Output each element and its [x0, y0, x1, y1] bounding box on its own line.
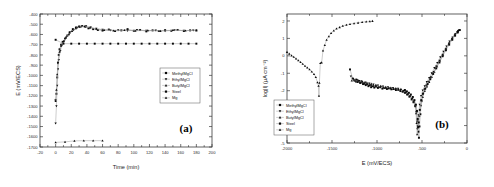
- legend-label-ethylmgcl: EthylMgCl: [286, 109, 304, 114]
- data-point-steel: [180, 43, 182, 45]
- y-tick-label: -5: [281, 141, 285, 146]
- x-tick-label: 120: [146, 150, 154, 155]
- y-axis-title: log|I| (µA cm⁻²): [262, 60, 268, 98]
- series-line-steel: [405, 32, 458, 126]
- x-axis-title: Time (min): [113, 164, 140, 170]
- data-point-steel: [404, 89, 406, 91]
- data-point-steel: [454, 35, 456, 37]
- legend-label-methylmgcl: MethylMgCl: [172, 71, 193, 76]
- y-tick-label: -500: [29, 22, 38, 27]
- panel-b-svg: -2000-1500-1000-5000210-1-2-3-4-5E (mV/E…: [247, 0, 494, 187]
- data-point-mg: [316, 81, 318, 83]
- data-point-steel: [172, 43, 174, 45]
- data-point-steel: [188, 43, 190, 45]
- data-point-steel: [164, 43, 166, 45]
- data-point-steel: [86, 43, 88, 45]
- data-point-steel: [156, 43, 158, 45]
- data-point-steel: [417, 118, 419, 120]
- panel-letter: (a): [180, 122, 193, 135]
- data-point-steel: [422, 93, 424, 95]
- legend-label-methylmgcl: MethylMgCl: [286, 103, 307, 108]
- data-point-steel: [70, 43, 72, 45]
- y-tick-label: 2: [282, 19, 285, 24]
- y-tick-label: -1300: [27, 104, 38, 109]
- panel-letter: (b): [435, 118, 449, 131]
- data-point-butylmgcl: [385, 86, 387, 88]
- data-point-methylmgcl: [349, 68, 351, 70]
- data-point-steel: [417, 126, 419, 128]
- panel-a: -20020406080100120140160180200-400-500-6…: [0, 0, 247, 187]
- data-point-steel: [420, 99, 422, 101]
- data-point-butylmgcl: [395, 87, 397, 89]
- data-point-steel: [419, 109, 421, 111]
- data-point-mg: [286, 51, 288, 53]
- x-tick-label: 0: [466, 146, 469, 151]
- legend-marker-methylmgcl: [279, 104, 281, 106]
- legend-label-butylmgcl: ButylMgCl: [286, 115, 304, 120]
- legend-label-mg: Mg: [172, 95, 177, 100]
- x-tick-label: -1000: [372, 146, 383, 151]
- data-point-mg: [322, 49, 324, 51]
- legend-marker-steel: [165, 90, 167, 92]
- data-point-steel: [412, 96, 414, 98]
- figure-container: -20020406080100120140160180200-400-500-6…: [0, 0, 494, 187]
- data-point-steel: [408, 92, 410, 94]
- data-point-steel: [94, 43, 96, 45]
- y-axis-title: E (mV/ECS): [15, 65, 21, 96]
- data-point-butylmgcl: [416, 133, 418, 135]
- legend-marker-steel: [279, 122, 281, 124]
- data-point-ethylmgcl: [55, 105, 57, 107]
- x-tick-label: 40: [85, 150, 90, 155]
- data-point-ethylmgcl: [54, 123, 56, 125]
- data-point-steel: [445, 49, 447, 51]
- data-point-steel: [435, 67, 437, 69]
- y-tick-label: -1700: [27, 145, 38, 150]
- legend-label-steel: Steel: [172, 89, 181, 94]
- data-point-mg: [318, 82, 320, 84]
- data-point-steel: [406, 90, 408, 92]
- legend-label-mg: Mg: [286, 127, 291, 132]
- y-tick-label: 0: [282, 53, 285, 58]
- y-tick-label: -1400: [27, 114, 38, 119]
- data-point-mg: [324, 44, 326, 46]
- x-tick-label: 160: [177, 150, 185, 155]
- panel-b: -2000-1500-1000-5000210-1-2-3-4-5E (mV/E…: [247, 0, 494, 187]
- data-point-ethylmgcl: [422, 89, 424, 91]
- data-point-steel: [451, 39, 453, 41]
- x-tick-label: 80: [116, 150, 121, 155]
- x-tick-label: -20: [37, 150, 44, 155]
- data-point-butylmgcl: [375, 84, 377, 86]
- data-point-steel: [109, 43, 111, 45]
- data-point-steel: [429, 78, 431, 80]
- y-tick-label: -1100: [27, 83, 38, 88]
- data-point-steel: [62, 43, 64, 45]
- data-point-steel: [125, 43, 127, 45]
- data-point-steel: [141, 43, 143, 45]
- y-tick-label: -1: [281, 71, 285, 76]
- data-point-methylmgcl: [177, 29, 179, 31]
- data-point-ethylmgcl: [420, 95, 422, 97]
- y-tick-label: -2: [281, 88, 285, 93]
- data-point-butylmgcl: [400, 88, 402, 90]
- data-point-steel: [133, 43, 135, 45]
- y-tick-label: -400: [29, 12, 38, 17]
- data-point-steel: [78, 43, 80, 45]
- series-line-ethylmgcl: [351, 31, 459, 129]
- data-point-steel: [413, 99, 415, 101]
- legend-marker-methylmgcl: [165, 72, 167, 74]
- x-tick-label: 20: [69, 150, 74, 155]
- data-point-mg: [293, 56, 295, 58]
- x-axis-title: E (mV/ECS): [362, 160, 393, 166]
- data-point-mg: [321, 61, 323, 63]
- y-tick-label: -1500: [27, 124, 38, 129]
- y-tick-label: -600: [29, 32, 38, 37]
- data-point-steel: [438, 61, 440, 63]
- y-tick-label: 1: [282, 36, 285, 41]
- data-point-steel: [418, 121, 420, 123]
- x-tick-label: 100: [130, 150, 138, 155]
- data-point-methylmgcl: [127, 28, 129, 30]
- x-tick-label: 140: [162, 150, 170, 155]
- y-tick-label: -1200: [27, 93, 38, 98]
- y-tick-label: -700: [29, 42, 38, 47]
- legend-label-ethylmgcl: EthylMgCl: [172, 77, 190, 82]
